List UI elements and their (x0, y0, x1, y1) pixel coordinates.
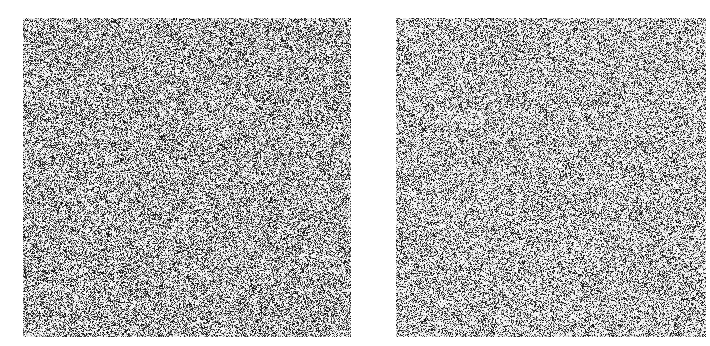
noise-image-left (23, 18, 351, 337)
noise-image-right (396, 18, 706, 337)
